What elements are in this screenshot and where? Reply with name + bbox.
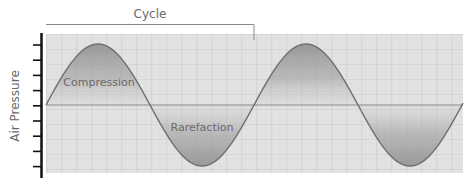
sound-wave-diagram: Cycle Air Pressure Compression Rarefacti… [0, 0, 475, 185]
compression-label: Compression [63, 76, 134, 89]
y-axis-label: Air Pressure [8, 70, 22, 142]
rarefaction-label: Rarefaction [171, 121, 234, 134]
cycle-label: Cycle [134, 7, 167, 21]
